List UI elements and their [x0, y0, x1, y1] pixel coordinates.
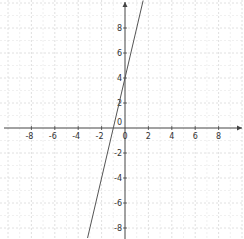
x-tick-label: 4 — [169, 132, 174, 141]
x-tick-label: 8 — [216, 132, 221, 141]
x-tick-label: -2 — [96, 132, 104, 141]
x-tick-label: 2 — [146, 132, 151, 141]
x-tick-label: 6 — [193, 132, 198, 141]
x-axis-arrow-icon — [237, 126, 242, 131]
y-tick-label: 8 — [117, 24, 122, 33]
y-tick-label: 4 — [117, 74, 122, 83]
y-tick-label: -2 — [114, 149, 122, 158]
y-axis-arrow-icon — [123, 2, 128, 7]
grid-lines — [0, 0, 244, 239]
x-tick-label: -4 — [72, 132, 80, 141]
y-tick-label: -6 — [114, 199, 122, 208]
origin-label: 0 — [117, 118, 122, 127]
y-tick-label: -8 — [114, 224, 122, 233]
y-tick-label: 6 — [117, 49, 122, 58]
x-tick-label: 0 — [122, 132, 127, 141]
graph-canvas[interactable]: -8-6-4-202468-8-6-4-224680 — [0, 0, 244, 239]
axes — [4, 2, 242, 239]
x-tick-label: -8 — [25, 132, 33, 141]
y-tick-label: -4 — [114, 174, 122, 183]
x-tick-label: -6 — [49, 132, 57, 141]
